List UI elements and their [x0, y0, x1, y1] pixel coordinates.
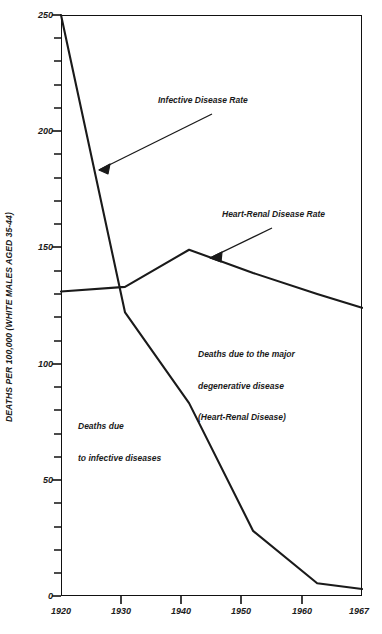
annotation-arrow-heart-renal	[210, 228, 272, 262]
chart-figure: DEATHS PER 100,000 (WHITE MALES AGED 35-…	[0, 0, 382, 634]
annotation-infective-deaths-note: Deaths due to infective diseases	[78, 400, 161, 484]
annotation-infective-deaths-line-2: to infective diseases	[78, 453, 161, 464]
annotation-infective-deaths-line-1: Deaths due	[78, 421, 161, 432]
y-axis-minor-ticks	[54, 38, 61, 573]
x-axis-ticks	[121, 596, 302, 604]
annotation-degenerative-line-1: Deaths due to the major	[198, 349, 295, 360]
annotation-infective-disease-rate: Infective Disease Rate	[158, 95, 248, 106]
annotation-degenerative-line-3: (Heart-Renal Disease)	[198, 412, 295, 423]
annotation-degenerative-note: Deaths due to the major degenerative dis…	[198, 328, 295, 444]
y-axis-major-ticks	[52, 15, 61, 596]
annotation-degenerative-line-2: degenerative disease	[198, 381, 295, 392]
annotation-heart-renal-disease-rate: Heart-Renal Disease Rate	[222, 209, 325, 220]
annotation-arrow-infective	[99, 114, 212, 174]
